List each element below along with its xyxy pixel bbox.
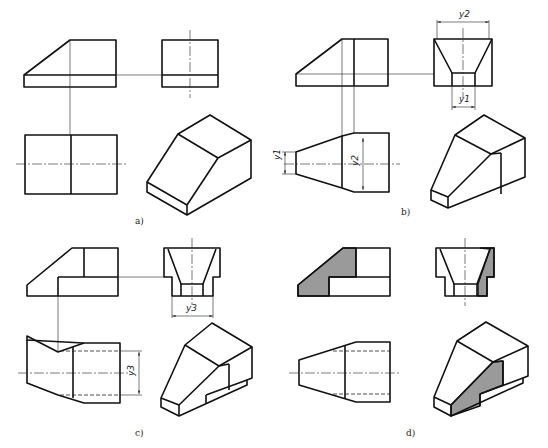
dimension-y1-side: y1	[458, 94, 470, 104]
panel-label-c: c)	[135, 428, 144, 438]
orthographic-projection-figure: a) y2 y1	[0, 0, 548, 448]
dimension-y3-side: y3	[185, 303, 197, 313]
dimension-y3-top: y3	[126, 365, 136, 377]
panel-d: d)	[289, 238, 528, 438]
top-view-a	[16, 135, 127, 194]
top-view-d	[289, 342, 400, 402]
front-view-c	[27, 248, 164, 352]
isometric-view-d-sectioned	[434, 322, 528, 416]
panel-c: y3 y3 c)	[18, 238, 252, 438]
panel-a: a)	[16, 30, 251, 226]
panel-label-d: d)	[406, 428, 415, 438]
side-view-b: y2 y1	[434, 9, 492, 110]
dimension-y2-top-view: y2	[350, 155, 360, 167]
front-view-b	[296, 39, 434, 137]
side-view-d-sectioned	[436, 238, 494, 306]
top-view-c: y3	[18, 336, 142, 403]
top-view-b: y1 y2	[272, 133, 400, 192]
dimension-y1-top: y1	[272, 149, 282, 161]
front-view-a	[24, 40, 162, 135]
isometric-view-a	[147, 115, 251, 215]
side-view-c: y3	[164, 238, 220, 318]
dimension-y2-top: y2	[458, 9, 470, 19]
panel-label-b: b)	[401, 207, 410, 217]
isometric-view-c	[161, 323, 252, 416]
panel-b: y2 y1 y1 y2 b)	[272, 9, 525, 217]
isometric-view-b	[431, 115, 525, 208]
panel-label-a: a)	[135, 216, 144, 226]
front-view-d-sectioned	[298, 248, 390, 296]
side-view-a	[162, 30, 218, 98]
